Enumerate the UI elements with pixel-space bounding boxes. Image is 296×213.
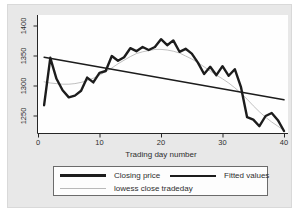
legend-sample-lowess [60, 188, 106, 189]
legend-sample-closing-price [60, 174, 106, 177]
y-tick-label-1350: 1350 [20, 48, 28, 65]
x-tick-label-0: 0 [36, 139, 40, 147]
x-tick-label-40: 40 [280, 139, 288, 147]
chart-graph-region: 1250 1300 1350 1400 0 10 20 30 40 Tradin… [7, 4, 292, 208]
plot-area [37, 15, 288, 134]
legend-label-lowess: lowess close tradeday [114, 184, 193, 193]
y-tick-label-1400: 1400 [20, 18, 28, 35]
x-tick-label-20: 20 [157, 139, 165, 147]
legend-label-fitted-values: Fitted values [224, 171, 269, 180]
y-tick-label-1300: 1300 [20, 78, 28, 95]
legend-box: Closing price Fitted values lowess close… [53, 166, 268, 196]
y-tick-label-1250: 1250 [20, 108, 28, 125]
x-tick-label-30: 30 [218, 139, 226, 147]
legend-label-closing-price: Closing price [114, 171, 160, 180]
x-tick-label-10: 10 [95, 139, 103, 147]
legend-sample-fitted-values [170, 175, 216, 177]
x-axis-title: Trading day number [125, 150, 196, 159]
